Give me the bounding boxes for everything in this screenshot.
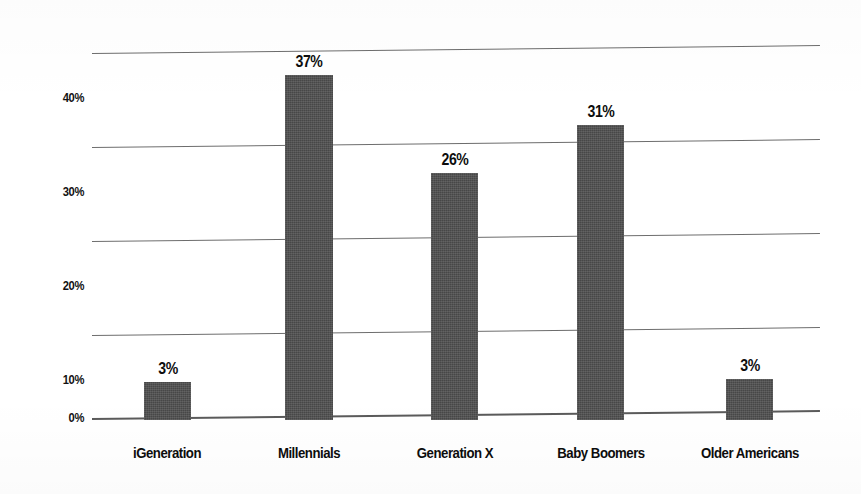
bar-generation-x[interactable] <box>431 173 478 420</box>
y-axis-tick-label-0: 0% <box>38 410 84 425</box>
bar-baby-boomers[interactable] <box>577 125 624 420</box>
bar-value-millennials: 37% <box>296 53 323 71</box>
plot-area: 3% 37% 26% 31% 3% <box>92 44 820 420</box>
x-axis-category-labels: iGeneration Millennials Generation X Bab… <box>92 444 820 474</box>
bar-group-igeneration: 3% <box>144 44 191 420</box>
bar-group-baby-boomers: 31% <box>577 44 624 420</box>
bar-value-igeneration: 3% <box>158 360 177 378</box>
bar-igeneration[interactable] <box>144 382 191 420</box>
bar-group-generation-x: 26% <box>431 44 478 420</box>
y-axis-tick-label-20: 20% <box>38 278 84 293</box>
bar-value-baby-boomers: 31% <box>587 103 614 121</box>
bar-millennials[interactable] <box>285 75 333 420</box>
y-axis-tick-label-30: 30% <box>38 184 84 199</box>
x-axis-label-generation-x: Generation X <box>385 444 526 461</box>
x-axis-label-baby-boomers: Baby Boomers <box>531 444 672 461</box>
x-axis-label-millennials: Millennials <box>239 444 380 461</box>
bar-value-generation-x: 26% <box>441 151 468 169</box>
y-axis-tick-label-10: 10% <box>38 372 84 387</box>
bar-group-older-americans: 3% <box>726 44 773 420</box>
y-axis-tick-labels: 40% 30% 20% 10% 0% <box>16 44 84 420</box>
y-axis-tick-label-40: 40% <box>38 90 84 105</box>
bar-value-older-americans: 3% <box>740 357 759 375</box>
x-axis-label-igeneration: iGeneration <box>97 444 238 461</box>
x-axis-label-older-americans: Older Americans <box>680 444 821 461</box>
bar-group-millennials: 37% <box>285 44 333 420</box>
bar-chart: 40% 30% 20% 10% 0% 3% 37% 26% 31% <box>0 0 861 494</box>
bar-older-americans[interactable] <box>726 379 773 420</box>
